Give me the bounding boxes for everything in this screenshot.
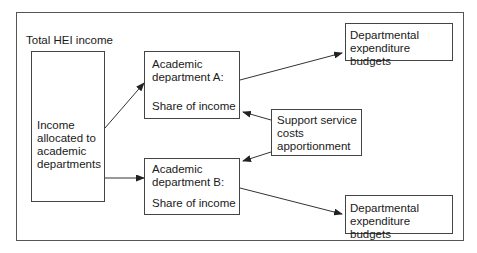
arrow-dept-a-to-budget	[240, 53, 342, 80]
arrow-support-to-dept-b	[243, 152, 271, 161]
arrow-dept-b-to-budget	[240, 188, 342, 214]
connector-arrows	[0, 0, 477, 253]
arrow-support-to-dept-a	[243, 112, 271, 120]
arrow-income-to-dept-a	[105, 83, 144, 128]
